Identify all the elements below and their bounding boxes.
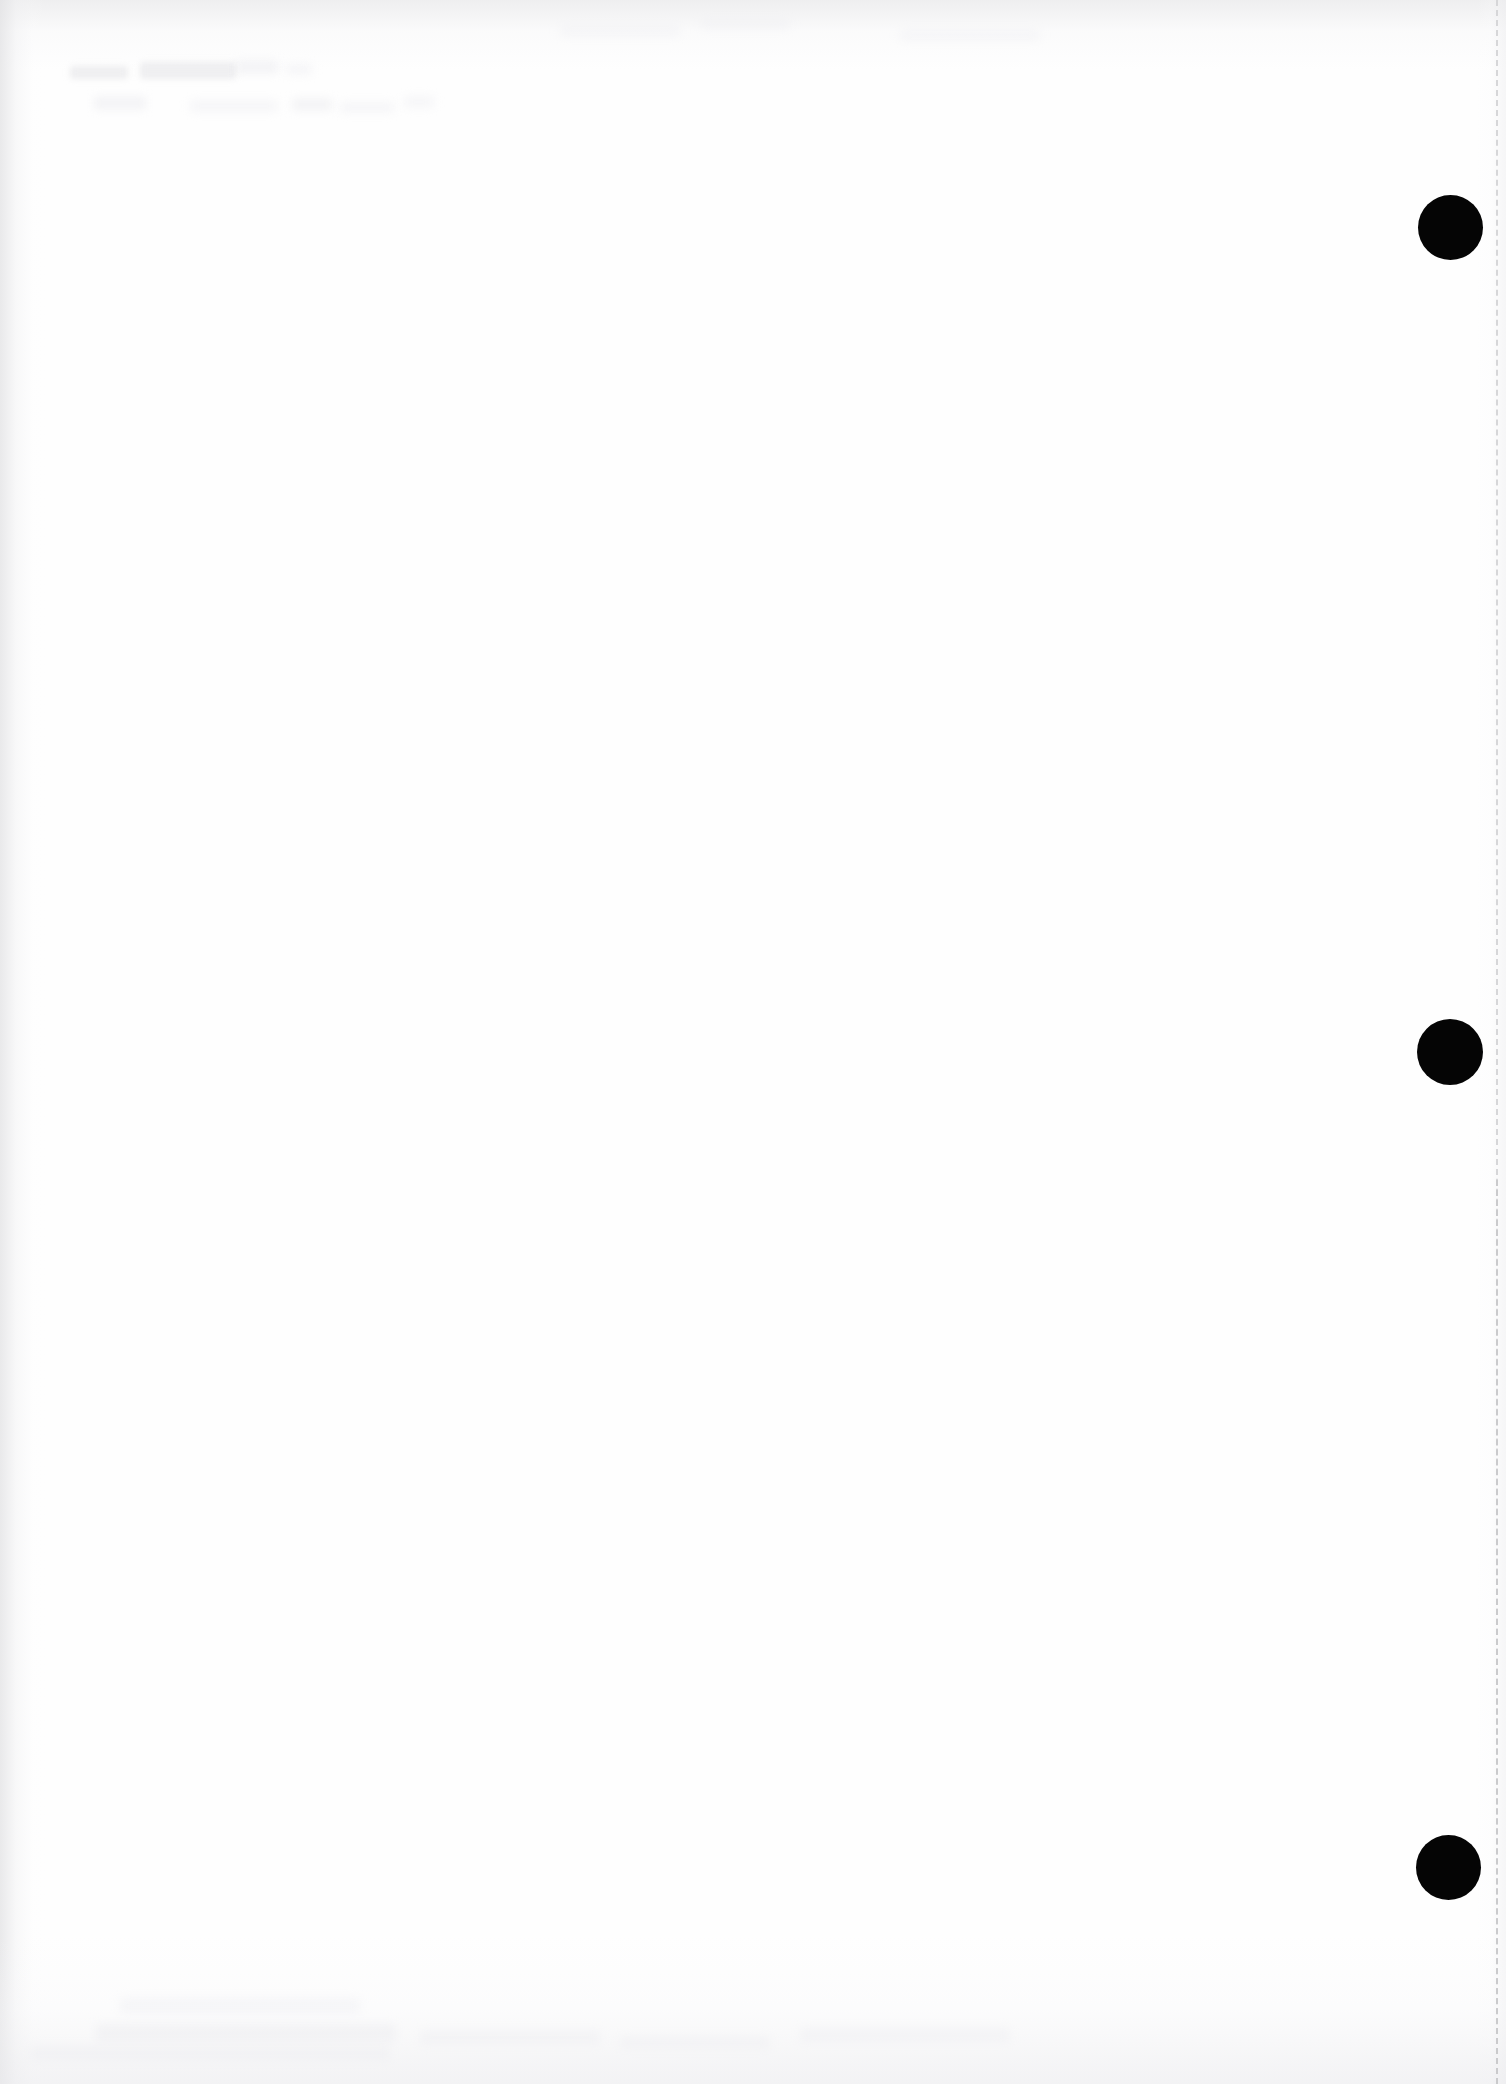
scanned-page [0, 0, 1506, 2084]
bleed-through-smudge [340, 102, 394, 113]
scan-vignette-left [0, 0, 46, 2084]
scan-vignette-bottom [0, 1934, 1506, 2084]
scan-vignette-top [0, 0, 1506, 70]
registration-dot-2 [1417, 1019, 1483, 1085]
perforation-guide-line-lower [1496, 1180, 1498, 2084]
bleed-through-smudge [94, 96, 146, 110]
registration-dot-1 [1418, 195, 1483, 260]
registration-dot-3 [1416, 1835, 1481, 1900]
paper-surface [0, 0, 1506, 2084]
bleed-through-smudge [292, 98, 332, 111]
bleed-through-smudge [190, 100, 278, 112]
bleed-through-smudge [404, 96, 434, 108]
